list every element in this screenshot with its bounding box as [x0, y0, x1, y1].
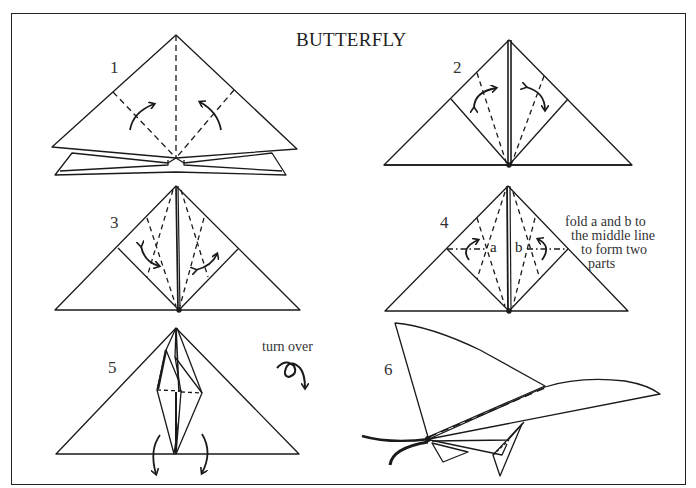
- step-number-4: 4: [440, 213, 449, 233]
- step-4-note-line-4: parts: [588, 257, 615, 271]
- page-title: BUTTERFLY: [296, 29, 407, 51]
- butterfly-antenna: [390, 442, 428, 465]
- turn-over-note: turn over: [262, 340, 313, 354]
- step-4-note-line-2: the middle line: [571, 229, 655, 243]
- flap-label-b: b: [515, 239, 523, 256]
- step-number-5: 5: [108, 358, 117, 378]
- step-number-6: 6: [384, 360, 393, 380]
- step-2-diagram: [384, 40, 632, 167]
- step-3-diagram: [55, 186, 300, 312]
- step-1-triangle: [52, 35, 297, 158]
- flap-label-a: a: [490, 239, 497, 256]
- step-1-diagram: [52, 35, 297, 175]
- step-4-note-line-1: fold a and b to: [565, 215, 646, 229]
- step-6-diagram: [362, 323, 660, 476]
- step-number-2: 2: [453, 58, 462, 78]
- step-number-1: 1: [110, 58, 119, 78]
- step-number-3: 3: [110, 213, 119, 233]
- step-4-note-line-3: to form two: [581, 243, 647, 257]
- turn-over-icon: [277, 362, 305, 388]
- butterfly-antenna: [362, 436, 430, 441]
